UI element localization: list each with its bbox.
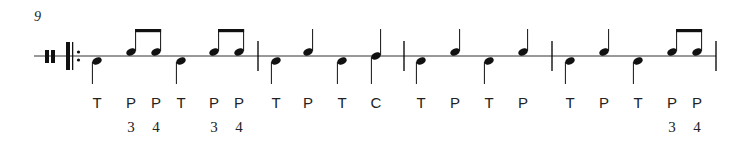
sticking-label: P [687,94,707,111]
sticking-label: C [366,94,386,111]
note-p [302,29,314,57]
note-p [150,29,162,57]
fingering-number: 3 [662,119,682,136]
note-p [598,29,610,57]
sticking-label: P [513,94,533,111]
sticking-label: P [662,94,682,111]
sticking-label: T [266,94,286,111]
sticking-label: T [171,94,191,111]
drum-notation-staff: 9 TP3P4TP3P4TPTCTPTPTPTP3P4 [0,0,753,145]
sticking-label: P [298,94,318,111]
note-t [415,56,427,84]
staff-graphics [0,0,753,145]
beam [676,29,702,32]
sticking-label: T [560,94,580,111]
sticking-label: P [594,94,614,111]
note-p [208,29,220,57]
note-c [370,29,382,84]
note-t [175,56,187,84]
measure-number: 9 [34,9,41,25]
note-p [233,29,245,57]
sticking-label: P [204,94,224,111]
note-t [336,56,348,84]
beam [218,29,244,32]
note-p [517,29,529,57]
note-t [632,56,644,84]
note-t [483,56,495,84]
sticking-label: P [229,94,249,111]
note-t [564,56,576,84]
sticking-label: T [332,94,352,111]
fingering-number: 4 [687,119,707,136]
sticking-label: T [87,94,107,111]
fingering-number: 3 [204,119,224,136]
beam [135,29,161,32]
fingering-number: 4 [146,119,166,136]
sticking-label: P [146,94,166,111]
note-p [666,29,678,57]
note-p [125,29,137,57]
note-p [449,29,461,57]
sticking-label: T [411,94,431,111]
fingering-number: 3 [121,119,141,136]
sticking-label: P [445,94,465,111]
note-t [91,56,103,84]
sticking-label: P [121,94,141,111]
note-t [270,56,282,84]
fingering-number: 4 [229,119,249,136]
sticking-label: T [628,94,648,111]
sticking-label: T [479,94,499,111]
note-p [691,29,703,57]
